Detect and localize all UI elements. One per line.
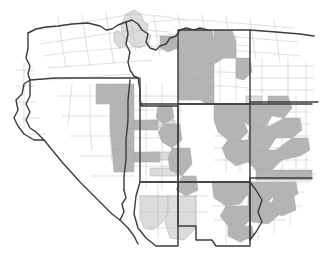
choropleth-map-figure — [0, 0, 320, 269]
map-canvas — [0, 0, 320, 269]
